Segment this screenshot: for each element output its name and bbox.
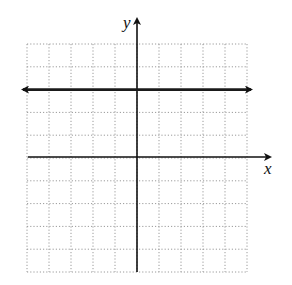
coordinate-plane (0, 0, 292, 285)
x-axis-label: x (264, 160, 272, 177)
y-axis-label: y (123, 14, 131, 31)
